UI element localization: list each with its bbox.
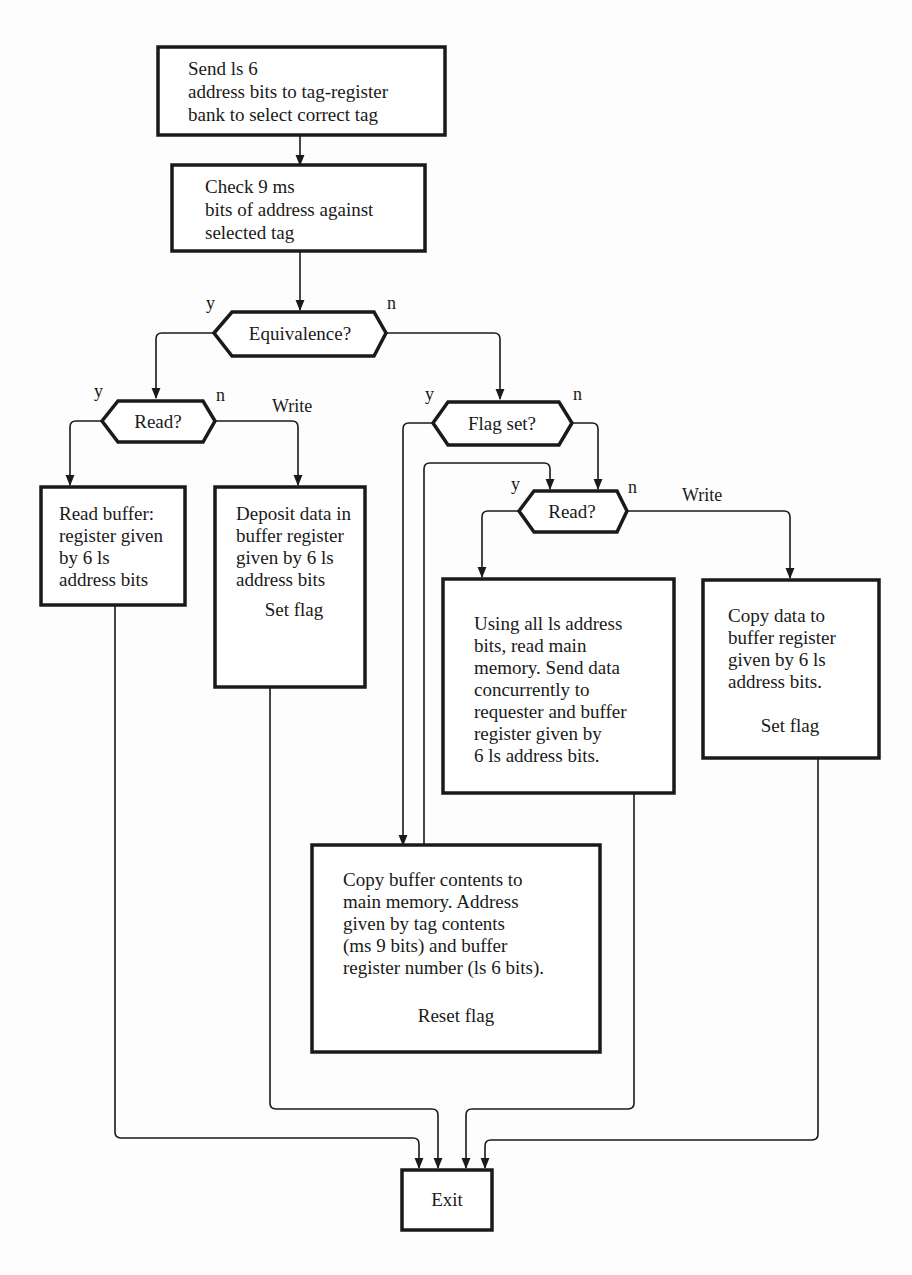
- process-read-main-memory: Using all ls address bits, read main mem…: [443, 579, 674, 793]
- box-text-line: register number (ls 6 bits).: [343, 957, 544, 979]
- box-text-line: concurrently to: [474, 679, 590, 700]
- box-text-line: Copy buffer contents to: [343, 869, 523, 890]
- box-text-line: Using all ls address: [474, 613, 622, 634]
- reset-flag-action: Reset flag: [418, 1005, 495, 1026]
- no-label: n: [628, 477, 637, 497]
- process-deposit-data: Deposit data in buffer register given by…: [215, 487, 365, 687]
- yes-label: y: [206, 293, 215, 313]
- box-text-line: given by tag contents: [343, 913, 505, 934]
- box-text-line: Read buffer:: [59, 503, 154, 524]
- svg-text:Flag set?: Flag set?: [468, 413, 536, 434]
- process-read-buffer: Read buffer: register given by 6 ls addr…: [41, 487, 185, 605]
- box-text-line: buffer register: [236, 525, 344, 546]
- connector-flag-set-yes: [403, 423, 433, 845]
- process-copy-buffer-to-memory: Copy buffer contents to main memory. Add…: [312, 845, 600, 1052]
- connector-equivalence-no: [386, 333, 500, 399]
- process-send-address-bits: Send ls 6 address bits to tag-register b…: [158, 47, 445, 135]
- box-text-line: bits of address against: [205, 199, 374, 220]
- box-text-line: Deposit data in: [236, 503, 352, 524]
- box-text-line: by 6 ls: [59, 547, 110, 568]
- box-text-line: address bits: [59, 569, 148, 590]
- connector-read-miss-yes: [482, 511, 519, 577]
- box-text-line: Check 9 ms: [205, 176, 295, 197]
- flowchart-page: Send ls 6 address bits to tag-register b…: [0, 0, 912, 1275]
- box-text-line: Copy data to: [728, 605, 825, 626]
- box-text-line: 6 ls address bits.: [474, 745, 600, 766]
- box-text-line: requester and buffer: [474, 701, 627, 722]
- decision-read-hit: Read? y n Write: [94, 381, 312, 442]
- terminal-exit: Exit: [402, 1170, 492, 1230]
- box-text-line: address bits.: [728, 671, 822, 692]
- svg-text:Read?: Read?: [134, 411, 181, 432]
- connector-equivalence-yes: [156, 333, 214, 398]
- svg-text:Equivalence?: Equivalence?: [249, 323, 351, 344]
- write-label: Write: [682, 485, 722, 505]
- set-flag-action: Set flag: [761, 715, 820, 736]
- process-check-tag: Check 9 ms bits of address against selec…: [172, 165, 425, 251]
- no-label: n: [573, 384, 582, 404]
- flowchart-diagram: Send ls 6 address bits to tag-register b…: [0, 0, 912, 1275]
- decision-read-miss: Read? y n Write: [511, 474, 722, 532]
- process-copy-data: Copy data to buffer register given by 6 …: [703, 580, 879, 758]
- box-text-line: selected tag: [205, 222, 295, 243]
- box-text-line: given by 6 ls: [236, 547, 334, 568]
- box-text-line: Send ls 6: [188, 58, 258, 79]
- box-text-line: register given: [59, 525, 163, 546]
- connector-read-miss-no: [627, 511, 790, 578]
- box-text-line: address bits: [236, 569, 325, 590]
- svg-text:Read?: Read?: [548, 501, 595, 522]
- connector-flag-set-no: [572, 423, 598, 489]
- yes-label: y: [511, 474, 520, 494]
- decision-flag-set: Flag set? y n: [425, 384, 582, 445]
- write-label: Write: [272, 396, 312, 416]
- box-text-line: bank to select correct tag: [188, 104, 378, 125]
- set-flag-action: Set flag: [265, 599, 324, 620]
- decision-equivalence: Equivalence? y n: [206, 293, 396, 356]
- svg-text:Exit: Exit: [431, 1189, 463, 1210]
- yes-label: y: [425, 384, 434, 404]
- box-text-line: main memory. Address: [343, 891, 519, 912]
- no-label: n: [216, 385, 225, 405]
- connector-read-hit-no: [215, 421, 298, 485]
- box-text-line: register given by: [474, 723, 602, 744]
- box-text-line: bits, read main: [474, 635, 587, 656]
- yes-label: y: [94, 381, 103, 401]
- connector-read-hit-yes: [70, 421, 102, 485]
- box-text-line: address bits to tag-register: [188, 81, 389, 102]
- no-label: n: [387, 293, 396, 313]
- box-text-line: given by 6 ls: [728, 649, 826, 670]
- box-text-line: memory. Send data: [474, 657, 621, 678]
- box-text-line: (ms 9 bits) and buffer: [343, 935, 508, 957]
- box-text-line: buffer register: [728, 627, 836, 648]
